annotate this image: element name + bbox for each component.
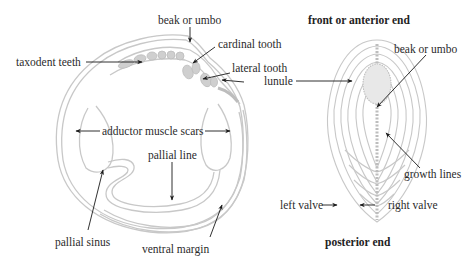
- label-left-valve: left valve: [280, 199, 323, 212]
- label-right-valve: right valve: [388, 199, 438, 212]
- label-front-anterior-end: front or anterior end: [308, 14, 410, 27]
- bivalve-diagram: beak or umbo cardinal tooth taxodent tee…: [0, 0, 469, 266]
- label-beak-or-umbo-dorsal: beak or umbo: [394, 43, 457, 56]
- label-cardinal-tooth: cardinal tooth: [218, 38, 282, 51]
- label-pallial-line: pallial line: [148, 149, 197, 162]
- lunule-shape: [363, 64, 391, 104]
- label-posterior-end: posterior end: [325, 236, 390, 249]
- dorsal-view-illustration: [328, 40, 427, 222]
- label-ventral-margin: ventral margin: [142, 243, 209, 256]
- label-pallial-sinus: pallial sinus: [55, 236, 110, 249]
- label-lunule: lunule: [264, 75, 293, 88]
- label-growth-lines: growth lines: [404, 168, 461, 181]
- label-lateral-tooth: lateral tooth: [232, 62, 287, 75]
- adductor-scar-posterior: [201, 104, 231, 170]
- adductor-scar-anterior: [79, 106, 113, 172]
- label-taxodent-teeth: taxodent teeth: [16, 56, 81, 69]
- label-adductor-muscle-scars: adductor muscle scars: [102, 125, 204, 138]
- label-beak-or-umbo-inner: beak or umbo: [158, 14, 221, 27]
